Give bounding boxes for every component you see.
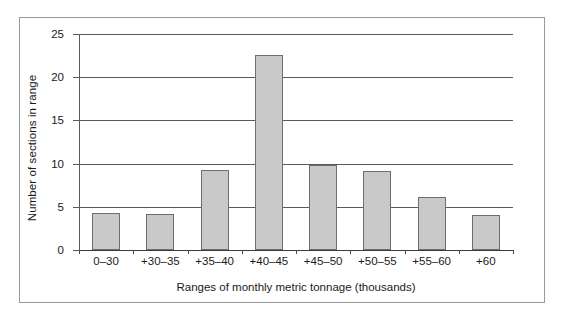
bars-layer [79, 34, 513, 250]
x-axis-tick-label: 0–30 [93, 255, 119, 267]
x-axis-tick-label: +55–60 [412, 255, 451, 267]
bar [418, 197, 446, 250]
x-axis-tick-label: +35–40 [195, 255, 234, 267]
x-axis-tick [513, 250, 514, 254]
x-axis-tick [459, 250, 460, 254]
x-axis-tick [79, 250, 80, 254]
bar [255, 55, 283, 250]
y-axis-tick-label: 10 [51, 158, 64, 170]
x-axis-tick [405, 250, 406, 254]
plot-area: 0510152025 [79, 34, 513, 250]
x-axis-tick-labels: 0–30+30–35+35–40+40–45+45–50+50–55+55–60… [79, 255, 513, 271]
y-axis-tick-label: 15 [51, 114, 64, 126]
x-axis-tick [296, 250, 297, 254]
x-axis-tick-label: +40–45 [250, 255, 289, 267]
y-axis-tick-label: 25 [51, 28, 64, 40]
y-axis-title: Number of sections in range [26, 38, 38, 258]
x-axis-tick [242, 250, 243, 254]
x-axis-tick-label: +60 [476, 255, 496, 267]
x-axis-tick [350, 250, 351, 254]
x-axis-tick [133, 250, 134, 254]
bar [472, 215, 500, 250]
bar [363, 171, 391, 250]
bar [92, 213, 120, 250]
y-axis-tick-label: 0 [58, 244, 64, 256]
y-axis-tick-label: 5 [58, 201, 64, 213]
bar [146, 214, 174, 250]
bar [201, 170, 229, 250]
x-axis-tick-label: +45–50 [304, 255, 343, 267]
x-axis-tick-label: +30–35 [141, 255, 180, 267]
x-axis-title: Ranges of monthly metric tonnage (thousa… [79, 281, 513, 293]
x-axis-tick-label: +50–55 [358, 255, 397, 267]
bar [309, 165, 337, 250]
x-axis-tick [188, 250, 189, 254]
y-axis-tick-label: 20 [51, 71, 64, 83]
chart-figure: Number of sections in range 0510152025 0… [0, 0, 564, 320]
